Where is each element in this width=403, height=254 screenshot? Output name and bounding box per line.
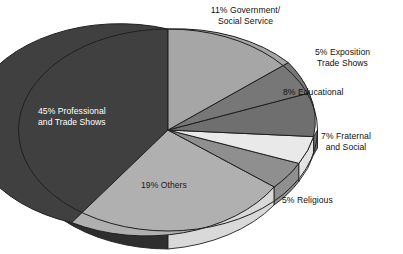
pie-chart: 11% Government/ Social Service 5% Exposi… [0, 0, 403, 254]
pie-label-religious: 5% Religious [282, 195, 400, 206]
pie-label-exposition: 5% Exposition Trade Shows [285, 47, 400, 69]
pie-label-government: 11% Government/ Social Service [183, 5, 308, 27]
pie-label-fraternal: 7% Fraternal and Social [292, 131, 400, 153]
pie-label-others: 19% Others [141, 180, 236, 191]
pie-label-professional: 45% Professional and Trade Shows [38, 106, 173, 128]
pie-label-educational: 8% Educational [283, 87, 400, 98]
